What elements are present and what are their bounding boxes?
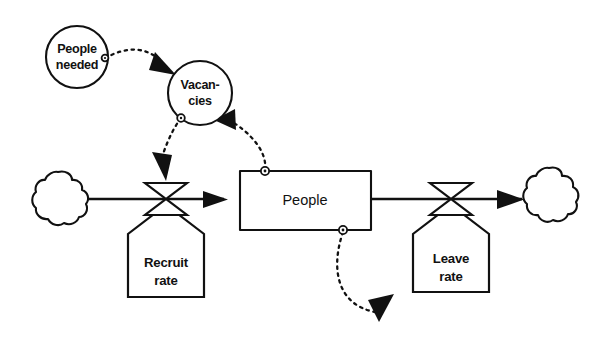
people-needed-label-line2: needed (56, 58, 98, 72)
leave-rate-label-line1: Leave (433, 251, 469, 266)
people-needed-circle (46, 26, 108, 88)
connection-point-vacancies-lower-left (177, 114, 185, 122)
people-stock-label: People (282, 192, 327, 208)
connection-point-people-top (261, 167, 269, 175)
source-cloud (32, 171, 88, 225)
info-link-people-to-vacancies (214, 109, 265, 170)
diagram-canvas: Recruit rate Leave rate People (0, 0, 598, 349)
people-needed-node[interactable]: People needed (46, 26, 108, 88)
people-to-leave-rate-arrowhead (368, 294, 394, 322)
stock-and-flow-diagram: Recruit rate Leave rate People (0, 0, 598, 349)
sink-cloud (523, 167, 578, 221)
leave-flow-arrowhead (497, 190, 524, 209)
info-link-people-needed-to-vacancies (105, 50, 176, 75)
vacancies-label-line1: Vacan- (181, 78, 220, 92)
leave-rate-label-line2: rate (439, 269, 462, 284)
people-stock-node[interactable]: People (240, 171, 371, 230)
recruit-flow-arrowhead (203, 191, 228, 208)
info-link-vacancies-to-recruit-rate (152, 118, 181, 181)
connection-point-people-needed (102, 55, 109, 62)
people-needed-label-line1: People (57, 42, 97, 56)
recruit-rate-label-line1: Recruit (144, 255, 189, 270)
vacancies-to-recruit-rate-arrowhead (152, 152, 172, 181)
info-link-people-to-leave-rate (337, 232, 394, 322)
connection-point-people-bottom (339, 226, 347, 234)
recruit-rate-label-line2: rate (154, 273, 177, 288)
vacancies-label-line2: cies (188, 94, 212, 108)
